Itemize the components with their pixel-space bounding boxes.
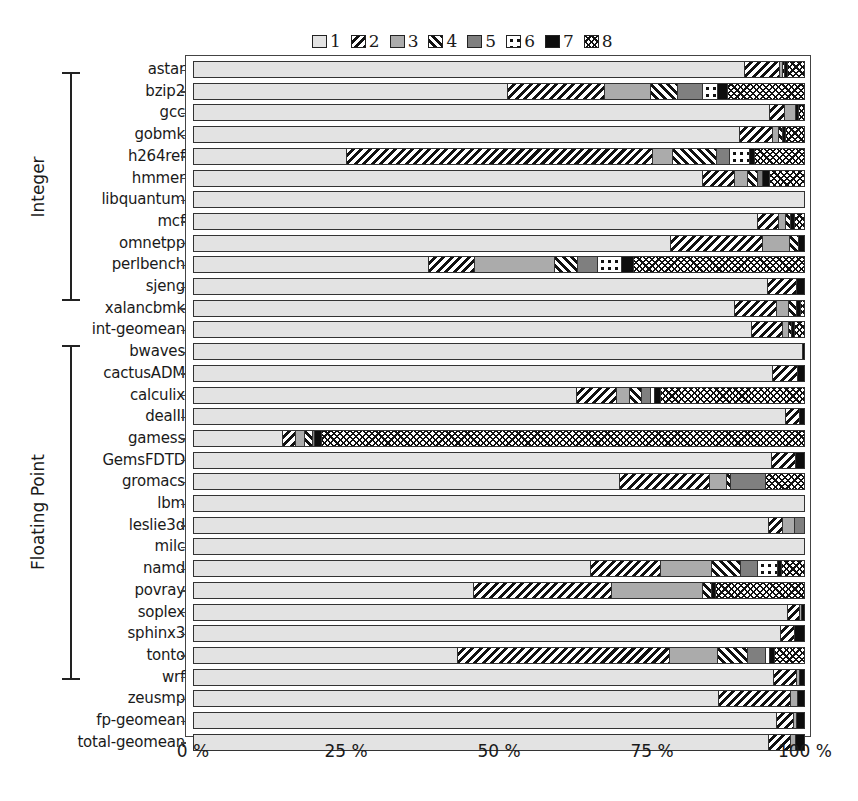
y-tick bbox=[181, 417, 186, 418]
bar-segment-3 bbox=[617, 388, 630, 403]
row-label: tonto bbox=[146, 647, 185, 664]
row-label: gobmk bbox=[134, 126, 185, 143]
bar-gromacs bbox=[193, 473, 805, 490]
bar-segment-7 bbox=[763, 171, 770, 186]
bar-segment-1 bbox=[194, 236, 671, 251]
bar-gamess bbox=[193, 430, 805, 447]
bar-segment-2 bbox=[786, 409, 799, 424]
bar-segment-6 bbox=[703, 84, 718, 99]
row-label: h264ref bbox=[128, 148, 185, 165]
y-tick bbox=[181, 178, 186, 179]
bar-segment-2 bbox=[347, 149, 653, 164]
legend-swatch-icon bbox=[545, 35, 560, 48]
bar-milc bbox=[193, 538, 805, 555]
y-tick bbox=[181, 373, 186, 374]
bar-segment-7 bbox=[800, 409, 804, 424]
y-tick bbox=[181, 395, 186, 396]
bar-segment-2 bbox=[769, 518, 783, 533]
legend-label: 8 bbox=[602, 31, 613, 51]
legend-swatch-icon bbox=[584, 35, 599, 48]
bar-segment-8 bbox=[755, 149, 804, 164]
bar-segment-4 bbox=[703, 583, 712, 598]
bar-sjeng bbox=[193, 278, 805, 295]
y-tick bbox=[181, 482, 186, 483]
bar-segment-3 bbox=[783, 518, 795, 533]
y-tick bbox=[181, 547, 186, 548]
row-label: cactusADM bbox=[103, 365, 185, 382]
bar-libquantum bbox=[193, 191, 805, 208]
bar-segment-2 bbox=[671, 236, 763, 251]
y-tick bbox=[181, 460, 186, 461]
bar-segment-4 bbox=[305, 431, 313, 446]
row-label: GemsFDTD bbox=[102, 452, 185, 469]
y-tick bbox=[181, 287, 186, 288]
bar-segment-1 bbox=[194, 171, 703, 186]
bar-segment-3 bbox=[710, 474, 726, 489]
bar-segment-8 bbox=[795, 214, 804, 229]
row-label: xalancbmk bbox=[105, 300, 185, 317]
bar-segment-4 bbox=[673, 149, 717, 164]
bar-segment-2 bbox=[745, 62, 780, 77]
bar-segment-1 bbox=[194, 149, 347, 164]
bar-segment-2 bbox=[735, 301, 776, 316]
bar-segment-8 bbox=[322, 431, 804, 446]
y-tick bbox=[181, 156, 186, 157]
legend-item-3: 3 bbox=[390, 31, 419, 51]
y-tick bbox=[181, 612, 186, 613]
bar-segment-3 bbox=[785, 105, 796, 120]
bar-segment-4 bbox=[748, 171, 758, 186]
bar-segment-1 bbox=[194, 214, 758, 229]
y-tick bbox=[181, 438, 186, 439]
bar-segment-4 bbox=[712, 561, 741, 576]
row-label: gromacs bbox=[122, 473, 185, 490]
bar-calculix bbox=[193, 387, 805, 404]
group-label-integer: Integer bbox=[28, 152, 48, 222]
y-tick bbox=[181, 221, 186, 222]
bar-segment-2 bbox=[772, 453, 796, 468]
bar-segment-3 bbox=[605, 84, 651, 99]
legend-swatch-icon bbox=[312, 35, 327, 48]
bar-segment-3 bbox=[475, 257, 556, 272]
bar-povray bbox=[193, 582, 805, 599]
bar-segment-1 bbox=[194, 344, 803, 359]
bar-segment-7 bbox=[803, 344, 804, 359]
y-tick bbox=[181, 308, 186, 309]
y-tick bbox=[181, 569, 186, 570]
bar-segment-3 bbox=[612, 583, 702, 598]
bar-segment-3 bbox=[661, 561, 712, 576]
bar-segment-1 bbox=[194, 105, 770, 120]
bar-segment-1 bbox=[194, 648, 458, 663]
row-label: astar bbox=[148, 61, 185, 78]
bar-segment-2 bbox=[703, 171, 735, 186]
y-tick bbox=[181, 70, 186, 71]
bar-segment-8 bbox=[634, 257, 804, 272]
bar-hmmer bbox=[193, 170, 805, 187]
bar-perlbench bbox=[193, 256, 805, 273]
integer-bracket-bottom bbox=[62, 299, 80, 301]
legend: 12345678 bbox=[312, 32, 623, 50]
bar-segment-2 bbox=[788, 605, 800, 620]
bar-segment-3 bbox=[296, 431, 305, 446]
y-tick bbox=[181, 634, 186, 635]
integer-bracket-line bbox=[70, 72, 72, 301]
y-tick bbox=[181, 352, 186, 353]
bar-segment-1 bbox=[194, 518, 769, 533]
legend-item-2: 2 bbox=[351, 31, 380, 51]
legend-label: 1 bbox=[330, 31, 341, 51]
legend-swatch-icon bbox=[390, 35, 405, 48]
bar-segment-2 bbox=[508, 84, 606, 99]
bar-h264ref bbox=[193, 148, 805, 165]
row-label: gamess bbox=[128, 430, 185, 447]
bar-segment-3 bbox=[791, 691, 798, 706]
row-label: dealII bbox=[145, 408, 185, 425]
y-tick bbox=[181, 677, 186, 678]
bar-segment-1 bbox=[194, 583, 474, 598]
y-tick bbox=[181, 504, 186, 505]
bar-segment-1 bbox=[194, 605, 788, 620]
bar-segment-2 bbox=[770, 105, 785, 120]
bar-sphinx3 bbox=[193, 625, 805, 642]
bar-segment-4 bbox=[555, 257, 578, 272]
x-tick-label: 0 % bbox=[177, 741, 209, 761]
bar-zeusmp bbox=[193, 690, 805, 707]
y-tick bbox=[181, 590, 186, 591]
